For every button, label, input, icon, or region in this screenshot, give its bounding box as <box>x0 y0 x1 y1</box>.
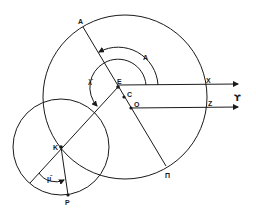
point-K <box>59 145 63 149</box>
label-K: K <box>53 144 58 151</box>
label-X: X <box>206 77 211 84</box>
label-P: P <box>65 199 70 206</box>
line-k-p <box>61 147 68 195</box>
label-A-top: A <box>78 18 83 25</box>
angle-arc-mu <box>39 173 64 182</box>
diagram-canvas: A A λ̄ E C O X Z ϒ K μ̄ P Π <box>0 0 256 212</box>
label-Z: Z <box>208 100 213 107</box>
label-C: C <box>127 91 132 98</box>
point-C <box>122 95 125 98</box>
angle-arc-A <box>99 47 158 85</box>
point-O <box>129 106 132 109</box>
label-lambda: λ̄ <box>88 79 94 86</box>
label-A-angle: A <box>143 54 148 61</box>
label-E: E <box>117 78 122 85</box>
point-E <box>116 85 120 89</box>
label-Pi: Π <box>165 172 170 179</box>
arrow-o-z <box>131 107 238 108</box>
arrow-e-x <box>118 84 238 85</box>
label-O: O <box>134 101 140 108</box>
label-aries: ϒ <box>234 93 241 103</box>
angle-arc-lambda <box>90 63 104 106</box>
point-P <box>66 193 69 196</box>
